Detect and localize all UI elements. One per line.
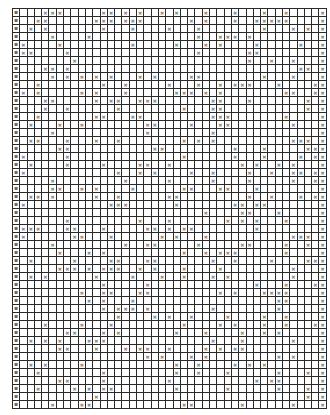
grid-row — [13, 137, 327, 145]
empty-cell — [27, 353, 34, 361]
empty-cell — [151, 193, 158, 201]
marked-cell — [253, 17, 260, 25]
marked-cell — [312, 153, 319, 161]
marked-cell — [231, 9, 238, 17]
empty-cell — [173, 161, 180, 169]
empty-cell — [78, 105, 85, 113]
empty-cell — [20, 305, 27, 313]
marked-cell — [115, 105, 122, 113]
marked-cell — [115, 193, 122, 201]
empty-cell — [56, 113, 63, 121]
row-label-cell — [13, 257, 20, 265]
empty-cell — [158, 369, 165, 377]
empty-cell — [312, 201, 319, 209]
empty-cell — [144, 385, 151, 393]
empty-cell — [304, 273, 311, 281]
empty-cell — [188, 385, 195, 393]
empty-cell — [107, 345, 114, 353]
empty-cell — [231, 393, 238, 401]
empty-cell — [282, 361, 289, 369]
marked-cell — [253, 41, 260, 49]
empty-cell — [158, 201, 165, 209]
empty-cell — [129, 329, 136, 337]
empty-cell — [166, 257, 173, 265]
empty-cell — [217, 129, 224, 137]
empty-cell — [304, 313, 311, 321]
empty-cell — [188, 57, 195, 65]
empty-cell — [56, 273, 63, 281]
marked-cell — [253, 185, 260, 193]
empty-cell — [129, 377, 136, 385]
empty-cell — [312, 353, 319, 361]
empty-cell — [151, 217, 158, 225]
empty-cell — [71, 393, 78, 401]
empty-cell — [122, 113, 129, 121]
empty-cell — [115, 57, 122, 65]
marked-cell — [282, 241, 289, 249]
empty-cell — [42, 33, 49, 41]
empty-cell — [151, 137, 158, 145]
empty-cell — [115, 273, 122, 281]
marked-cell — [115, 305, 122, 313]
empty-cell — [122, 193, 129, 201]
empty-cell — [129, 337, 136, 345]
empty-cell — [27, 65, 34, 73]
empty-cell — [312, 17, 319, 25]
empty-cell — [85, 217, 92, 225]
marked-cell — [319, 345, 326, 353]
empty-cell — [268, 105, 275, 113]
empty-cell — [180, 145, 187, 153]
empty-cell — [151, 249, 158, 257]
empty-cell — [312, 121, 319, 129]
empty-cell — [115, 337, 122, 345]
empty-cell — [71, 161, 78, 169]
empty-cell — [231, 193, 238, 201]
empty-cell — [180, 177, 187, 185]
marked-cell — [275, 329, 282, 337]
empty-cell — [253, 313, 260, 321]
marked-cell — [319, 321, 326, 329]
empty-cell — [27, 41, 34, 49]
marked-cell — [319, 377, 326, 385]
empty-cell — [115, 161, 122, 169]
empty-cell — [268, 153, 275, 161]
empty-cell — [85, 393, 92, 401]
empty-cell — [297, 401, 304, 409]
empty-cell — [71, 129, 78, 137]
empty-cell — [27, 81, 34, 89]
marked-cell — [100, 249, 107, 257]
row-label-cell — [13, 201, 20, 209]
empty-cell — [137, 201, 144, 209]
empty-cell — [275, 361, 282, 369]
marked-cell — [239, 337, 246, 345]
marked-cell — [312, 193, 319, 201]
empty-cell — [282, 201, 289, 209]
empty-cell — [195, 401, 202, 409]
empty-cell — [42, 185, 49, 193]
marked-cell — [151, 97, 158, 105]
row-label-cell — [13, 153, 20, 161]
empty-cell — [188, 161, 195, 169]
empty-cell — [202, 401, 209, 409]
marked-cell — [217, 89, 224, 97]
grid-row — [13, 169, 327, 177]
empty-cell — [224, 65, 231, 73]
empty-cell — [78, 297, 85, 305]
marked-cell — [34, 137, 41, 145]
empty-cell — [290, 201, 297, 209]
empty-cell — [71, 25, 78, 33]
marked-cell — [290, 121, 297, 129]
marked-cell — [107, 385, 114, 393]
marked-cell — [173, 41, 180, 49]
empty-cell — [239, 169, 246, 177]
empty-cell — [49, 113, 56, 121]
empty-cell — [210, 265, 217, 273]
empty-cell — [173, 353, 180, 361]
marked-cell — [282, 289, 289, 297]
empty-cell — [290, 321, 297, 329]
empty-cell — [144, 393, 151, 401]
marked-cell — [188, 401, 195, 409]
grid-row — [13, 9, 327, 17]
empty-cell — [188, 41, 195, 49]
marked-cell — [239, 81, 246, 89]
